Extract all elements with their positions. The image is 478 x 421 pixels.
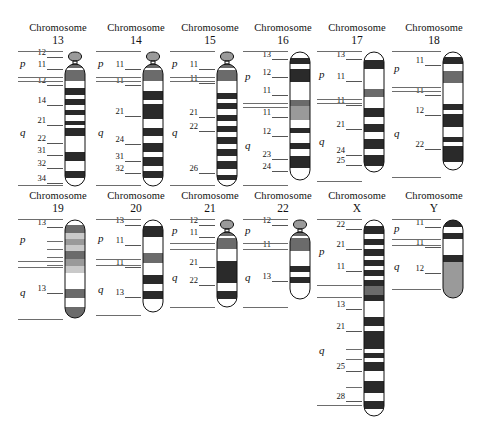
chromosome-band — [363, 155, 385, 166]
chromosome-band — [64, 99, 86, 105]
band-tick — [346, 59, 362, 60]
chromosome-band — [64, 245, 86, 251]
chromosome-band — [289, 100, 311, 106]
chromosome-band — [142, 100, 164, 104]
chromosome-band — [142, 152, 164, 157]
band-tick — [346, 271, 362, 272]
band-tick — [272, 77, 288, 78]
chromosome-title-label: Chromosome — [96, 22, 176, 34]
band-tick — [346, 331, 362, 332]
band-label: 22 — [329, 220, 345, 229]
chromosome-title-label: Chromosome — [392, 190, 476, 202]
chromosome-band — [142, 81, 164, 91]
chromosome-band — [142, 157, 164, 166]
chromosome-band — [363, 381, 385, 393]
chromosome-band — [363, 249, 385, 256]
arm-label-p: p — [319, 246, 325, 257]
band-tick — [47, 155, 63, 156]
ideogram-drawing — [289, 219, 311, 300]
chromosome-band — [289, 168, 311, 180]
band-tick-unlabeled — [346, 387, 362, 388]
band-tick — [125, 297, 141, 298]
ideogram-drawing — [216, 51, 238, 187]
chromosome-band — [216, 93, 238, 99]
chromosome-number-label: 17 — [317, 34, 397, 47]
ideogram-drawing — [142, 219, 164, 313]
chromosome-title-label: Chromosome — [170, 190, 250, 202]
chromosome-title-label: Chromosome — [96, 190, 176, 202]
band-label: 21 — [329, 120, 345, 129]
band-label: 22 — [30, 134, 46, 143]
chromosome-band — [216, 137, 238, 144]
chromosome-number-label: 14 — [96, 34, 176, 47]
chromosome-band — [216, 161, 238, 169]
chromosome-band — [216, 249, 238, 261]
arm-boundary-rule — [243, 107, 288, 108]
band-label: 14 — [30, 96, 46, 105]
band-label: 21 — [329, 240, 345, 249]
band-tick — [125, 173, 141, 174]
chromosome-band — [289, 143, 311, 149]
band-label: 24 — [329, 146, 345, 155]
chromosome-band — [442, 83, 464, 104]
band-tick — [47, 125, 63, 126]
band-tick — [425, 115, 441, 116]
arm-boundary-rule — [392, 289, 441, 290]
band-label: 24 — [255, 162, 271, 171]
arm-boundary-rule — [317, 285, 362, 286]
chromosome-band — [363, 295, 385, 301]
chromosome-title-label: Chromosome — [170, 22, 250, 34]
band-tick — [272, 95, 288, 96]
band-label: 11 — [329, 72, 345, 81]
chromosome-number-label: 18 — [392, 34, 476, 47]
band-tick — [346, 229, 362, 230]
arm-boundary-rule — [18, 267, 63, 268]
band-tick — [125, 85, 141, 86]
band-tick — [125, 161, 141, 162]
arm-label-p: p — [394, 63, 400, 74]
chromosome-band — [289, 82, 311, 100]
chromosome-band — [289, 133, 311, 143]
band-tick — [125, 245, 141, 246]
band-label: 21 — [30, 116, 46, 125]
band-label: 12 — [255, 68, 271, 77]
chromosome-band — [216, 115, 238, 121]
arm-boundary-rule — [96, 77, 141, 78]
ideogram-body: 1313pq — [18, 219, 98, 323]
arm-boundary-rule — [243, 185, 288, 186]
band-label: 11 — [408, 56, 424, 65]
chromosome-band — [216, 149, 238, 156]
chromosome-band — [289, 238, 311, 251]
band-tick — [47, 143, 63, 144]
chromosome-band — [64, 128, 86, 136]
chromosome-number-label: 19 — [18, 202, 98, 215]
chromosome-title-label: Chromosome — [18, 190, 98, 202]
chromosome-title-label: Chromosome — [317, 190, 397, 202]
chromosome-band — [442, 127, 464, 137]
ideogram-drawing — [442, 219, 464, 299]
band-label: 32 — [30, 159, 46, 168]
ideogram-body: 121112142122313234pq — [18, 51, 98, 191]
band-tick — [346, 249, 362, 250]
chromosome-band — [142, 104, 164, 119]
chromosome-band — [442, 104, 464, 110]
band-tick — [272, 159, 288, 160]
arm-label-q: q — [20, 127, 26, 138]
band-label: 11 — [108, 236, 124, 245]
arm-label-p: p — [172, 225, 178, 236]
chromosome-band — [64, 105, 86, 110]
chromosome-band — [216, 70, 238, 81]
ideogram-drawing — [216, 219, 238, 308]
chromosome-band — [142, 136, 164, 143]
arm-label-q: q — [319, 136, 325, 147]
chromosome-band — [442, 244, 464, 255]
chromosome-band — [442, 114, 464, 127]
band-label: 13 — [108, 288, 124, 297]
arm-boundary-rule — [96, 315, 141, 316]
ideogram-drawing — [64, 219, 86, 319]
arm-boundary-rule — [243, 307, 288, 308]
chromosome-band — [142, 299, 164, 312]
chromosome-band — [289, 266, 311, 272]
chromosome-band — [363, 234, 385, 239]
chromosome-band — [216, 52, 238, 61]
